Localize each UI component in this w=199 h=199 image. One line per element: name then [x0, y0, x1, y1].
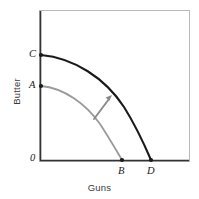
- chart-canvas: [0, 0, 199, 199]
- point-b: [120, 158, 124, 162]
- point-label-d: D: [147, 165, 155, 176]
- point-d: [149, 158, 153, 162]
- ppf-figure: C A 0 B D Butter Guns: [0, 0, 199, 199]
- point-a: [39, 84, 43, 88]
- x-axis-title: Guns: [0, 182, 199, 193]
- origin-label: 0: [30, 152, 35, 163]
- point-label-b: B: [118, 165, 124, 176]
- point-label-a: A: [29, 79, 35, 90]
- point-c: [39, 53, 43, 57]
- outward-shift-arrow: [94, 95, 112, 119]
- y-axis-title: Butter: [11, 62, 22, 122]
- outer-frontier-curve: [41, 55, 151, 160]
- point-label-c: C: [29, 48, 36, 59]
